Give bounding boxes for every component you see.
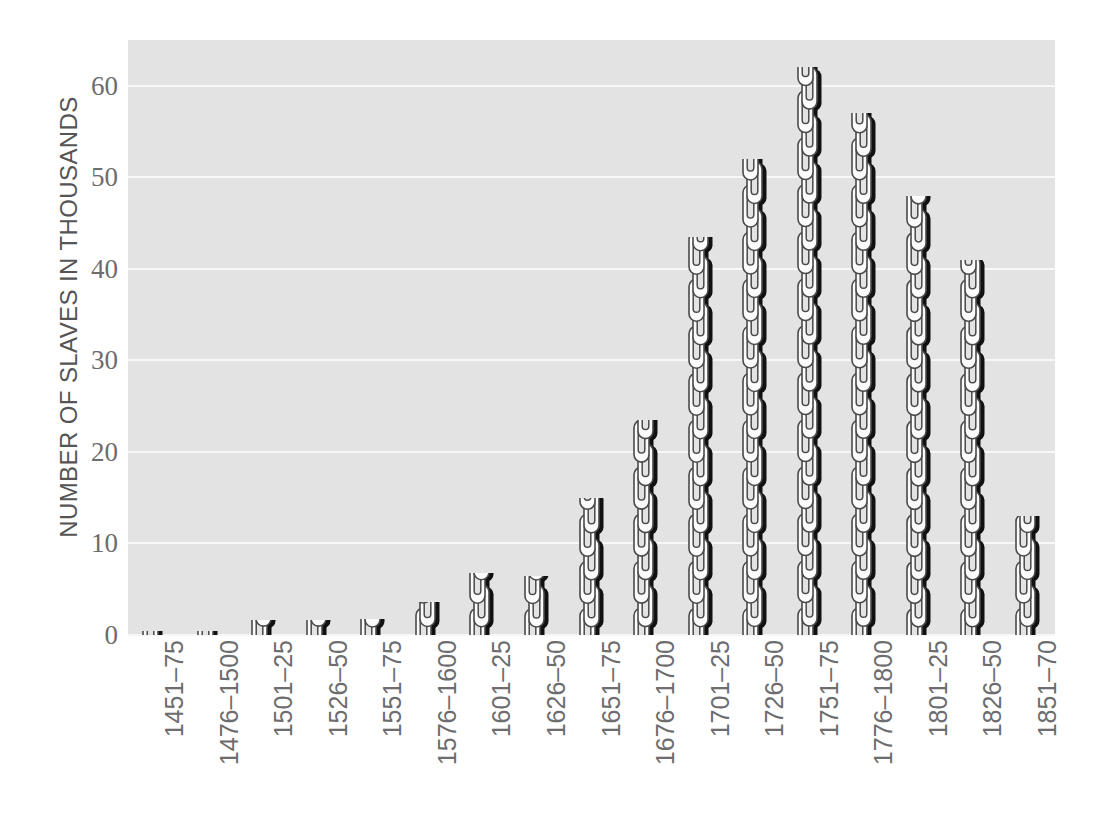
chain-link-icon (358, 619, 388, 635)
chain-bar (631, 420, 661, 635)
chain-link-icon (522, 576, 552, 636)
chain-bar (195, 631, 225, 635)
plot-area (128, 40, 1055, 635)
chain-bar (1013, 516, 1043, 635)
y-axis-tick-label: 40 (64, 255, 118, 282)
chain-bar (795, 67, 825, 635)
x-axis-tick-label: 1651–75 (599, 640, 624, 810)
x-axis-tick-label: 1801–25 (926, 640, 951, 810)
chain-bar (686, 237, 716, 635)
y-axis-tick-label: 30 (64, 347, 118, 374)
chain-link-icon (1013, 516, 1043, 635)
chain-link-icon (140, 631, 170, 635)
chain-bar (304, 620, 334, 635)
chain-link-icon (577, 498, 607, 635)
chain-bar (413, 602, 443, 635)
chain-link-icon (195, 631, 225, 635)
y-axis-tick-labels: 0102030405060 (62, 0, 118, 815)
chain-bar (904, 196, 934, 635)
x-axis-tick-label: 1551–75 (380, 640, 405, 810)
chain-link-icon (740, 159, 770, 635)
chart-root: NUMBER OF SLAVES IN THOUSANDS 0102030405… (0, 0, 1097, 815)
x-axis-tick-label: 1851–70 (1035, 640, 1060, 810)
x-axis-tick-label: 1601–25 (489, 640, 514, 810)
chain-bar (577, 498, 607, 635)
x-axis-tick-label: 1826–50 (980, 640, 1005, 810)
y-axis-tick-label: 60 (64, 72, 118, 99)
chain-link-icon (467, 573, 497, 635)
y-axis-tick-label: 20 (64, 438, 118, 465)
y-axis-tick-label: 0 (64, 622, 118, 649)
x-axis-tick-label: 1776–1800 (871, 640, 896, 810)
chain-link-icon (304, 620, 334, 635)
x-axis-tick-label: 1476–1500 (217, 640, 242, 810)
x-axis-tick-label: 1501–25 (271, 640, 296, 810)
y-axis-tick-label: 50 (64, 164, 118, 191)
chain-link-icon (413, 602, 443, 635)
chain-bar (740, 159, 770, 635)
chain-bar (958, 260, 988, 635)
chain-link-icon (904, 196, 934, 635)
chain-link-icon (795, 67, 825, 635)
chain-bar (249, 620, 279, 635)
x-axis-tick-label: 1676–1700 (653, 640, 678, 810)
chain-bar (358, 619, 388, 635)
chain-link-icon (631, 420, 661, 635)
chain-bar (467, 573, 497, 635)
x-axis-tick-label: 1526–50 (326, 640, 351, 810)
x-axis-tick-label: 1751–75 (817, 640, 842, 810)
x-axis-tick-labels: 1451–751476–15001501–251526–501551–75157… (128, 640, 1055, 815)
y-axis-tick-label: 10 (64, 530, 118, 557)
chain-link-icon (849, 113, 879, 635)
x-axis-tick-label: 1701–25 (708, 640, 733, 810)
bar-series (128, 40, 1055, 635)
chain-bar (849, 113, 879, 635)
chain-bar (522, 576, 552, 636)
chain-link-icon (958, 260, 988, 635)
x-axis-tick-label: 1626–50 (544, 640, 569, 810)
chain-bar (140, 631, 170, 635)
chain-link-icon (249, 620, 279, 635)
x-axis-tick-label: 1451–75 (162, 640, 187, 810)
x-axis-tick-label: 1726–50 (762, 640, 787, 810)
x-axis-tick-label: 1576–1600 (435, 640, 460, 810)
chain-link-icon (686, 237, 716, 635)
